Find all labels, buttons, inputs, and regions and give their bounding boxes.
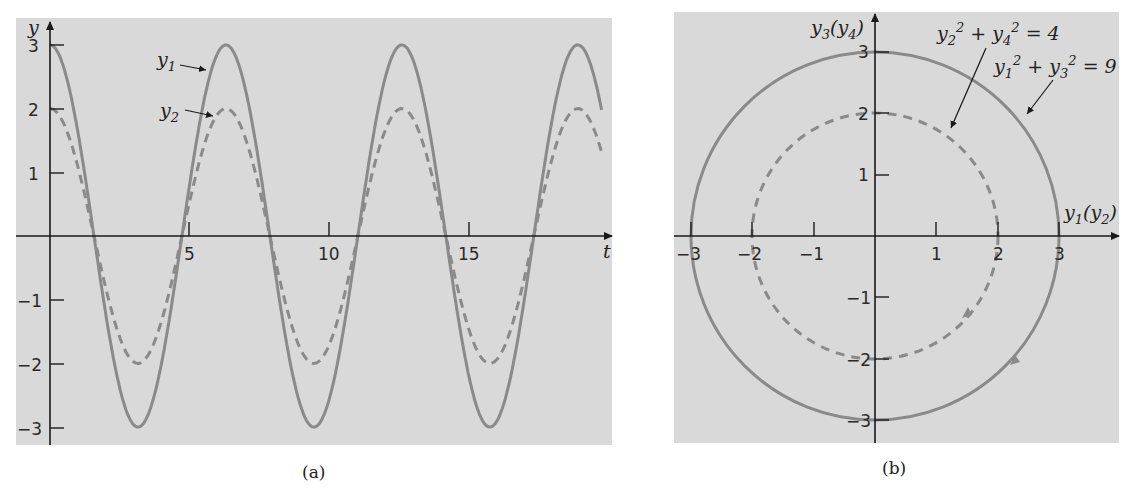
y-tick-label: 3: [858, 42, 869, 62]
y-axis-label: y: [27, 16, 39, 38]
figure: 3 2 1 −1 −2 −3 5 10 15 y t y1 y2 (a): [0, 0, 1127, 495]
y-tick-label: −2: [17, 355, 42, 375]
y-tick-label: −3: [846, 411, 871, 431]
x-tick-label: −3: [676, 244, 701, 264]
y-tick-label: −1: [846, 288, 871, 308]
panel-b: −3 −2 −1 1 2 3 3 2 1 −1 −2 −3 y3(y4) y1(…: [674, 12, 1119, 443]
x-tick-label: −1: [799, 244, 824, 264]
y-tick-label: 3: [28, 36, 39, 56]
y-tick-label: 2: [858, 104, 869, 124]
t-tick-label: 15: [458, 244, 480, 264]
y-tick-label: −1: [17, 291, 42, 311]
plot-background-a: [16, 18, 612, 445]
y-tick-label: −3: [17, 419, 42, 439]
x-tick-label: −2: [737, 244, 762, 264]
y-tick-label: 1: [28, 164, 39, 184]
y-tick-label: 2: [28, 100, 39, 120]
x-tick-label: 2: [993, 244, 1004, 264]
panel-a: 3 2 1 −1 −2 −3 5 10 15 y t y1 y2: [16, 16, 612, 445]
caption-a: (a): [302, 462, 325, 482]
y-tick-label: 1: [858, 165, 869, 185]
y-tick-label: −2: [846, 350, 871, 370]
t-tick-label: 10: [318, 244, 340, 264]
x-tick-label: 1: [931, 244, 942, 264]
x-tick-label: 3: [1054, 244, 1065, 264]
t-axis-label: t: [603, 240, 611, 262]
caption-b: (b): [882, 458, 906, 478]
t-tick-label: 5: [184, 244, 195, 264]
